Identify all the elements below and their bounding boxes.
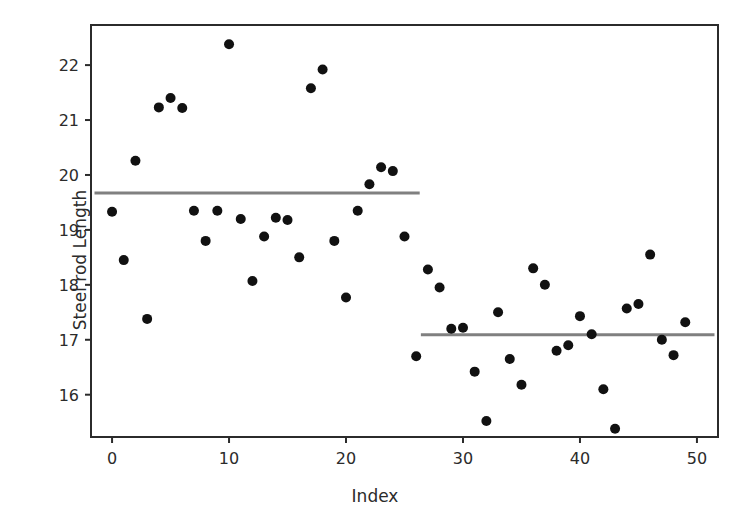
x-tick-label: 40 bbox=[570, 449, 590, 468]
data-point bbox=[622, 303, 632, 313]
x-tick-label: 30 bbox=[453, 449, 473, 468]
data-point bbox=[201, 236, 211, 246]
data-point bbox=[598, 384, 608, 394]
y-tick-label: 22 bbox=[59, 56, 79, 75]
x-tick-label: 50 bbox=[687, 449, 707, 468]
x-tick-label: 10 bbox=[219, 449, 239, 468]
y-tick-label: 17 bbox=[59, 331, 79, 350]
data-point bbox=[458, 323, 468, 333]
y-tick-label: 21 bbox=[59, 111, 79, 130]
data-point bbox=[552, 346, 562, 356]
data-point bbox=[353, 206, 363, 216]
data-point bbox=[388, 166, 398, 176]
y-tick-label: 18 bbox=[59, 276, 79, 295]
x-tick-label: 20 bbox=[336, 449, 356, 468]
data-point bbox=[435, 283, 445, 293]
data-point bbox=[341, 292, 351, 302]
y-axis-ticks: 16171819202122 bbox=[59, 56, 91, 405]
data-point bbox=[177, 103, 187, 113]
data-point bbox=[318, 64, 328, 74]
data-point bbox=[130, 156, 140, 166]
data-point bbox=[540, 280, 550, 290]
y-tick-label: 20 bbox=[59, 166, 79, 185]
data-point bbox=[563, 340, 573, 350]
data-point bbox=[142, 314, 152, 324]
data-point bbox=[411, 351, 421, 361]
data-point bbox=[669, 350, 679, 360]
y-tick-label: 16 bbox=[59, 386, 79, 405]
data-point bbox=[575, 311, 585, 321]
data-point bbox=[364, 179, 374, 189]
data-point bbox=[446, 324, 456, 334]
data-point bbox=[587, 329, 597, 339]
data-point bbox=[528, 263, 538, 273]
data-point bbox=[470, 367, 480, 377]
data-point bbox=[633, 299, 643, 309]
data-point bbox=[657, 335, 667, 345]
data-point bbox=[493, 307, 503, 317]
data-point bbox=[212, 206, 222, 216]
data-point bbox=[271, 213, 281, 223]
data-point bbox=[329, 236, 339, 246]
data-point bbox=[423, 264, 433, 274]
data-point bbox=[481, 416, 491, 426]
data-point bbox=[247, 276, 257, 286]
data-point bbox=[236, 214, 246, 224]
data-point bbox=[224, 39, 234, 49]
data-point bbox=[189, 206, 199, 216]
data-point bbox=[107, 207, 117, 217]
data-point bbox=[154, 102, 164, 112]
scatter-plot: 01020304050 16171819202122 bbox=[0, 0, 750, 519]
x-axis-ticks: 01020304050 bbox=[107, 437, 707, 468]
data-point bbox=[166, 93, 176, 103]
data-point bbox=[283, 215, 293, 225]
data-point bbox=[259, 231, 269, 241]
axes-frame bbox=[91, 25, 718, 437]
data-point bbox=[400, 231, 410, 241]
figure-canvas: Steel rod Length Index 01020304050 16171… bbox=[0, 0, 750, 519]
data-point bbox=[680, 317, 690, 327]
data-point bbox=[516, 380, 526, 390]
data-point bbox=[119, 255, 129, 265]
data-point bbox=[376, 162, 386, 172]
y-tick-label: 19 bbox=[59, 221, 79, 240]
plot-border bbox=[91, 25, 718, 437]
data-point bbox=[645, 250, 655, 260]
data-point bbox=[505, 354, 515, 364]
x-tick-label: 0 bbox=[107, 449, 117, 468]
data-point bbox=[306, 83, 316, 93]
data-point bbox=[610, 424, 620, 434]
data-point bbox=[294, 252, 304, 262]
